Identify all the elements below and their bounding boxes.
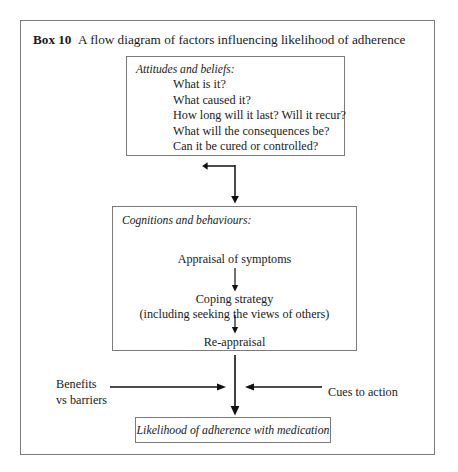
label-benefits-line1: Benefits bbox=[56, 377, 107, 393]
step-re-appraisal: Re-appraisal bbox=[113, 335, 356, 350]
label-benefits-vs-barriers: Benefits vs barriers bbox=[56, 377, 107, 408]
step-coping-strategy-detail: (including seeking the views of others) bbox=[113, 307, 356, 322]
figure-caption: Box 10 A flow diagram of factors influen… bbox=[33, 31, 423, 48]
box-cognitions-and-behaviours: Cognitions and behaviours: Appraisal of … bbox=[112, 206, 357, 351]
figure-label: Box 10 bbox=[33, 32, 71, 47]
step-appraisal-of-symptoms: Appraisal of symptoms bbox=[113, 252, 356, 267]
attitudes-heading: Attitudes and beliefs: bbox=[136, 62, 235, 77]
label-benefits-line2: vs barriers bbox=[56, 393, 107, 409]
list-item: What is it? bbox=[173, 77, 346, 93]
cognitions-heading: Cognitions and behaviours: bbox=[122, 213, 251, 228]
list-item: What will the consequences be? bbox=[173, 124, 346, 140]
label-cues-to-action: Cues to action bbox=[328, 385, 398, 401]
step-coping-strategy: Coping strategy bbox=[113, 292, 356, 307]
attitudes-question-list: What is it? What caused it? How long wil… bbox=[173, 77, 346, 155]
list-item: Can it be cured or controlled? bbox=[173, 139, 346, 155]
outcome-text: Likelihood of adherence with medication bbox=[136, 422, 330, 438]
figure-caption-text: A flow diagram of factors influencing li… bbox=[78, 32, 405, 47]
list-item: What caused it? bbox=[173, 93, 346, 109]
box-likelihood-of-adherence: Likelihood of adherence with medication bbox=[135, 417, 331, 443]
box-attitudes-and-beliefs: Attitudes and beliefs: What is it? What … bbox=[126, 56, 345, 156]
list-item: How long will it last? Will it recur? bbox=[173, 108, 346, 124]
figure-canvas: Box 10 A flow diagram of factors influen… bbox=[0, 0, 458, 472]
